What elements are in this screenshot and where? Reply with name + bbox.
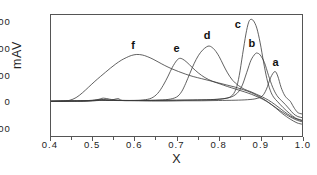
x-tick-mark: [92, 137, 93, 141]
x-tick-mark-minor: [240, 137, 241, 140]
x-tick-mark: [134, 137, 135, 141]
curve-label-a: a: [273, 57, 279, 68]
curve-a: [51, 72, 302, 114]
plot-area: [50, 14, 303, 137]
curve-label-f: f: [131, 40, 135, 51]
x-tick-mark-minor: [155, 137, 156, 140]
curve-canvas: [51, 15, 302, 136]
chart-figure: mAV 3002001000-100 abcdef 0.40.50.60.70.…: [0, 0, 317, 175]
curve-label-b: b: [249, 38, 256, 49]
x-tick-mark: [50, 137, 51, 141]
y-tick-label: -100: [0, 123, 11, 134]
curve-d: [51, 46, 302, 121]
x-tick-mark: [303, 137, 304, 141]
x-tick-mark-minor: [282, 137, 283, 140]
y-tick-label: 100: [0, 70, 11, 81]
x-tick-mark: [261, 137, 262, 141]
curve-label-d: d: [204, 30, 211, 41]
x-tick-mark-minor: [198, 137, 199, 140]
x-tick-label: 1.0: [283, 139, 317, 150]
x-axis-label: X: [50, 152, 303, 166]
x-tick-mark-minor: [113, 137, 114, 140]
curve-label-c: c: [235, 19, 241, 30]
y-tick-label: 300: [0, 16, 11, 27]
x-tick-mark: [219, 137, 220, 141]
x-tick-mark: [177, 137, 178, 141]
y-tick-label: 200: [0, 43, 11, 54]
y-axis-label: mAV: [10, 32, 24, 78]
curve-label-e: e: [174, 43, 180, 54]
curve-b: [51, 53, 302, 118]
y-tick-label: 0: [0, 96, 11, 107]
curve-c: [51, 19, 302, 120]
x-tick-mark-minor: [71, 137, 72, 140]
